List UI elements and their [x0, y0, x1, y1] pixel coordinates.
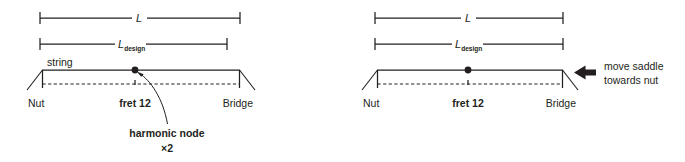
move-saddle-instruction-line1: move saddle [604, 60, 664, 72]
move-saddle-arrow-icon [574, 66, 596, 80]
string-assembly-before [27, 67, 255, 90]
nut-label: Nut [28, 97, 44, 109]
dimension-label-L: L [465, 12, 471, 24]
panel-after: L Ldesign Nut [362, 10, 664, 109]
move-saddle-instruction-line2: towards nut [604, 74, 658, 86]
harmonic-node-dot [465, 67, 472, 74]
dimension-label-L: L [136, 12, 142, 24]
bridge-label: Bridge [223, 97, 254, 109]
dimension-label-Ldesign-subscript: design [461, 45, 482, 53]
string-label-group: string [47, 56, 73, 68]
dimension-line-L-after: L [375, 10, 563, 26]
left-arrow-glyph [574, 66, 596, 80]
fret-12-label: fret 12 [119, 97, 151, 109]
string-label: string [47, 56, 73, 68]
figure-canvas: L Ldesign [0, 0, 685, 162]
harmonic-node-callout-line1: harmonic node [129, 127, 204, 139]
nut-headstock-slope [27, 70, 43, 90]
nut-label: Nut [363, 97, 379, 109]
nut-headstock-slope [362, 70, 378, 90]
dimension-line-Ldesign-before: Ldesign [40, 36, 227, 53]
dimension-label-Ldesign-subscript: design [124, 45, 145, 53]
intonation-diagram: L Ldesign [0, 0, 685, 162]
bridge-label: Bridge [546, 97, 577, 109]
panel-before: L Ldesign [27, 10, 255, 154]
dimension-line-L-before: L [40, 10, 240, 26]
fret-12-label: fret 12 [452, 97, 484, 109]
string-assembly-after [362, 67, 578, 90]
bridge-body-slope [240, 70, 256, 90]
harmonic-node-callout-line2: ×2 [161, 142, 173, 154]
dimension-line-Ldesign-after: Ldesign [375, 36, 563, 53]
harmonic-node-dot [132, 67, 139, 74]
